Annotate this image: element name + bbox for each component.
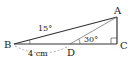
angle-label-B: 15°: [38, 24, 52, 33]
angle-label-D: 30°: [84, 35, 98, 44]
measure-label-BD: 4 cm: [28, 49, 48, 58]
angle-arc-D: [79, 39, 80, 44]
segment-BA: [14, 17, 117, 44]
point-label-D: D: [67, 47, 75, 58]
point-label-A: A: [113, 5, 122, 16]
triangle-diagram: A B C D 15° 30° 4 cm: [0, 0, 137, 62]
point-label-C: C: [120, 40, 128, 51]
point-label-B: B: [4, 39, 11, 50]
right-angle-marker: [111, 38, 117, 44]
